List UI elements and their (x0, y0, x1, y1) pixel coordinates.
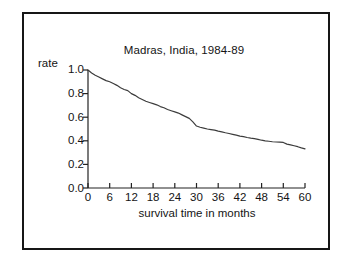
survival-curve-line (88, 70, 305, 149)
survival-curve-chart: Madras, India, 1984-89 rate survival tim… (0, 0, 346, 262)
y-axis-ticks (83, 70, 88, 188)
x-axis-ticks (88, 183, 305, 188)
plot-svg (0, 0, 346, 262)
